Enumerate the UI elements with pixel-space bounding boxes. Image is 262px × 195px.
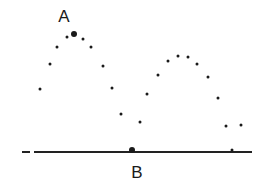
trajectory-dot — [120, 113, 123, 116]
trajectory-dot — [217, 97, 220, 100]
label-a: A — [58, 8, 69, 25]
trajectory-dot — [139, 121, 142, 124]
trajectory-dot — [196, 63, 199, 66]
trajectory-dot — [90, 46, 93, 49]
trajectory-dot — [187, 56, 190, 59]
trajectory-dot — [225, 125, 228, 128]
trajectory-dot — [82, 38, 85, 41]
trajectory-dot — [39, 88, 42, 91]
trajectory-dot — [177, 55, 180, 58]
trajectory-dot — [49, 63, 52, 66]
baseline — [34, 151, 252, 153]
trajectory-dot — [111, 87, 114, 90]
label-b: B — [131, 164, 142, 181]
baseline-dash — [22, 151, 30, 153]
trajectory-dot — [157, 74, 160, 77]
diagram-canvas: A B — [0, 0, 262, 195]
trajectory-dot — [146, 93, 149, 96]
point-b — [129, 147, 135, 153]
trajectory-dot — [66, 36, 69, 39]
trajectory-dot — [231, 149, 234, 152]
trajectory-dot — [240, 124, 243, 127]
trajectory-dot — [207, 76, 210, 79]
trajectory-dot — [102, 65, 105, 68]
trajectory-dot — [56, 46, 59, 49]
point-a — [71, 31, 77, 37]
trajectory-dot — [167, 60, 170, 63]
